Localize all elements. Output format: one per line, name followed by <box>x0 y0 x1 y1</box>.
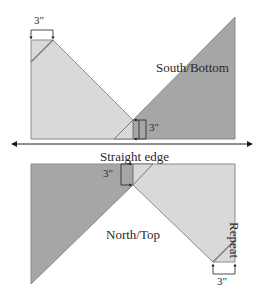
dark-left-piece <box>31 164 133 284</box>
dim-label-bottom-right: 3" <box>217 275 227 287</box>
repeat-label: Repeat <box>226 222 242 258</box>
title-north-top: North/Top <box>106 227 160 243</box>
dim-label-center-bottom: 3" <box>103 167 113 179</box>
light-left-piece <box>31 40 133 139</box>
south-bottom-panel <box>31 17 235 139</box>
title-south-bottom: South/Bottom <box>156 60 229 76</box>
dim-label-top-left: 3" <box>34 14 44 26</box>
straight-edge-label: Straight edge <box>100 149 169 165</box>
light-right-piece <box>133 164 235 262</box>
north-top-panel <box>31 164 235 284</box>
dim-label-center-top: 3" <box>149 121 159 133</box>
